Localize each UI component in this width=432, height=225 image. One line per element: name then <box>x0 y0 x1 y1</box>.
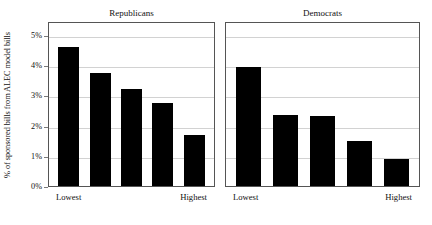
bar <box>121 89 142 186</box>
chart-figure: % of sponsored bills from ALEC model bil… <box>0 0 432 225</box>
x-tick-lowest-democrats: Lowest <box>233 190 258 204</box>
panel-democrats <box>225 22 420 187</box>
y-tick-mark <box>44 36 48 37</box>
y-tick-mark <box>44 187 48 188</box>
bar-group-democrats <box>226 23 419 186</box>
y-tick-label: 3% <box>16 91 42 100</box>
panel-title-republicans: Republicans <box>48 7 215 20</box>
y-tick-mark <box>44 66 48 67</box>
y-tick-label: 4% <box>16 61 42 70</box>
y-tick-label: 2% <box>16 122 42 131</box>
y-tick-mark <box>44 127 48 128</box>
y-tick-mark <box>44 96 48 97</box>
y-axis-tick-labels: 0%1%2%3%4%5% <box>16 0 42 225</box>
bar <box>236 67 261 186</box>
x-tick-lowest-republicans: Lowest <box>56 190 81 204</box>
panel-title-democrats: Democrats <box>225 7 420 20</box>
panel-republicans <box>48 22 215 187</box>
bar <box>310 116 335 186</box>
bar <box>90 73 111 186</box>
bar-group-republicans <box>49 23 214 186</box>
bar <box>384 159 409 186</box>
y-tick-label: 0% <box>16 182 42 191</box>
x-tick-highest-republicans: Highest <box>180 190 207 204</box>
x-tick-highest-democrats: Highest <box>385 190 412 204</box>
y-tick-mark <box>44 157 48 158</box>
y-tick-label: 1% <box>16 152 42 161</box>
bar <box>273 115 298 186</box>
bar <box>152 103 173 186</box>
x-axis-republicans: Lowest Highest <box>48 190 215 204</box>
bar <box>58 47 79 186</box>
y-tick-label: 5% <box>16 31 42 40</box>
x-axis-democrats: Lowest Highest <box>225 190 420 204</box>
bar <box>184 135 205 186</box>
y-axis-title: % of sponsored bills from ALEC model bil… <box>1 10 15 200</box>
bar <box>347 141 372 186</box>
